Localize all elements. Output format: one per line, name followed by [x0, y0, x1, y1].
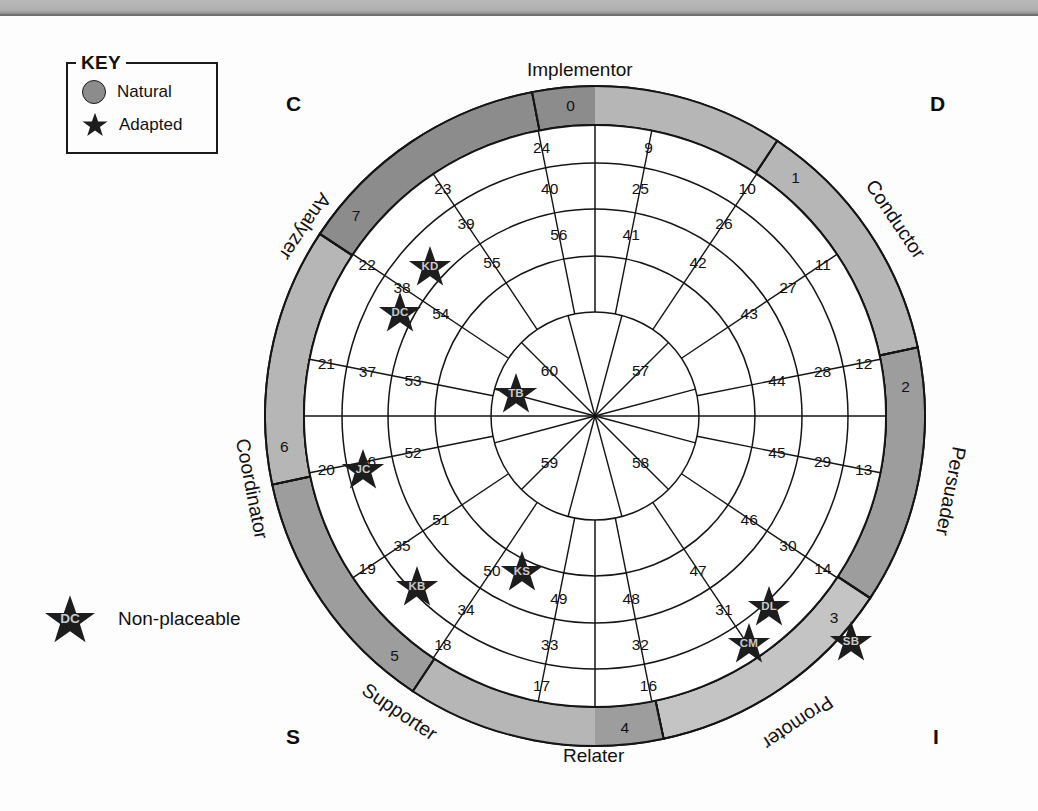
ring2-number: 28 — [814, 363, 831, 380]
legend-label-natural: Natural — [117, 82, 172, 102]
ring3-number: 41 — [623, 226, 640, 243]
non-placeable-label: Non-placeable — [118, 608, 241, 630]
ring3-number: 50 — [483, 562, 501, 579]
ring1-number: 11 — [815, 256, 831, 273]
outer-ring-number: 5 — [390, 647, 399, 664]
plot-marker-label: KD — [421, 260, 438, 272]
inner-ring-number: 58 — [632, 454, 649, 471]
key-legend-box: Natural Adapted — [66, 62, 218, 154]
ring1-number: 14 — [814, 560, 832, 577]
plot-marker-label: KB — [408, 580, 425, 592]
inner-ring-number: 57 — [632, 362, 649, 379]
corner-letter-s: S — [286, 725, 300, 749]
ring3-number: 47 — [689, 562, 706, 579]
ring3-number: 46 — [741, 511, 758, 528]
ring3-number: 49 — [550, 590, 567, 607]
outer-ring-number: 6 — [280, 438, 289, 455]
inner-ring-number: 60 — [541, 362, 559, 379]
ring2-number: 33 — [541, 636, 558, 653]
ring2-number: 26 — [715, 215, 732, 232]
ring1-number: 20 — [318, 461, 336, 478]
circle-icon — [82, 80, 106, 104]
plot-marker-label: DL — [761, 600, 777, 612]
outer-ring-number: 3 — [830, 609, 839, 626]
ring1-number: 18 — [434, 636, 451, 653]
legend-label-adapted: Adapted — [119, 115, 182, 135]
star-icon — [82, 112, 108, 137]
ring3-number: 44 — [768, 372, 786, 389]
top-gray-band — [0, 0, 1038, 16]
ring-label-relater: Relater — [563, 745, 624, 767]
ring1-number: 24 — [533, 139, 551, 156]
ring2-number: 34 — [457, 601, 475, 618]
key-legend-title: KEY — [76, 52, 126, 74]
ring3-number: 52 — [404, 444, 421, 461]
ring3-number: 42 — [689, 254, 706, 271]
ring-label-curved: Persuader — [932, 445, 971, 538]
ring2-number: 25 — [632, 180, 649, 197]
outer-ring-number: 1 — [791, 169, 800, 186]
ring2-number: 27 — [779, 279, 796, 296]
corner-letter-c: C — [286, 92, 301, 116]
plot-marker-label: CM — [740, 637, 758, 649]
ring1-number: 12 — [855, 355, 872, 372]
non-placeable-legend: DC Non-placeable — [44, 594, 241, 644]
ring2-number: 32 — [632, 636, 649, 653]
plot-marker-label: TB — [508, 387, 524, 399]
ring1-number: 22 — [359, 256, 376, 273]
outer-ring-number: 7 — [352, 207, 361, 224]
ring1-number: 23 — [434, 180, 451, 197]
ring1-number: 21 — [318, 355, 335, 372]
ring2-number: 40 — [541, 180, 559, 197]
ring3-number: 51 — [432, 511, 449, 528]
ring2-number: 30 — [779, 537, 797, 554]
ring1-number: 16 — [640, 677, 657, 694]
ring1-number: 17 — [533, 677, 550, 694]
ring2-number: 31 — [715, 601, 732, 618]
outer-ring-number: 4 — [621, 719, 630, 736]
legend-item-adapted: Adapted — [82, 112, 182, 137]
plot-marker-label: DC — [391, 306, 408, 318]
ring1-number: 10 — [739, 180, 757, 197]
ring-label-curved: Promoter — [758, 691, 837, 754]
legend-item-natural: Natural — [82, 80, 172, 104]
corner-letter-i: I — [933, 725, 939, 749]
ring3-number: 56 — [550, 226, 567, 243]
ring3-number: 45 — [768, 444, 785, 461]
outer-ring-number: 2 — [901, 378, 910, 395]
ring3-number: 53 — [404, 372, 421, 389]
ring2-number: 37 — [359, 363, 376, 380]
star-icon-non-placeable: DC — [44, 594, 96, 644]
non-placeable-marker-text: DC — [60, 611, 80, 626]
ring2-number: 39 — [457, 215, 474, 232]
ring-label-implementor: Implementor — [527, 59, 633, 81]
ring3-number: 43 — [741, 305, 758, 322]
ring1-number: 13 — [855, 461, 872, 478]
ring3-number: 54 — [432, 305, 450, 322]
plot-marker-label: SB — [843, 635, 859, 647]
ring2-number: 35 — [393, 537, 410, 554]
chart-stage: 0123456791011121314151617181920212223242… — [0, 16, 1038, 811]
plot-marker-label: KS — [514, 565, 531, 577]
ring3-number: 48 — [623, 590, 640, 607]
ring1-number: 9 — [644, 139, 653, 156]
corner-letter-d: D — [930, 92, 945, 116]
ring1-number: 19 — [359, 560, 376, 577]
ring2-number: 38 — [393, 279, 410, 296]
plot-marker-label: JC — [355, 463, 370, 475]
ring2-number: 29 — [814, 453, 831, 470]
ring3-number: 55 — [483, 254, 500, 271]
outer-ring-number: 0 — [566, 97, 575, 114]
inner-ring-number: 59 — [541, 454, 558, 471]
outer-ring-shade — [532, 86, 595, 130]
